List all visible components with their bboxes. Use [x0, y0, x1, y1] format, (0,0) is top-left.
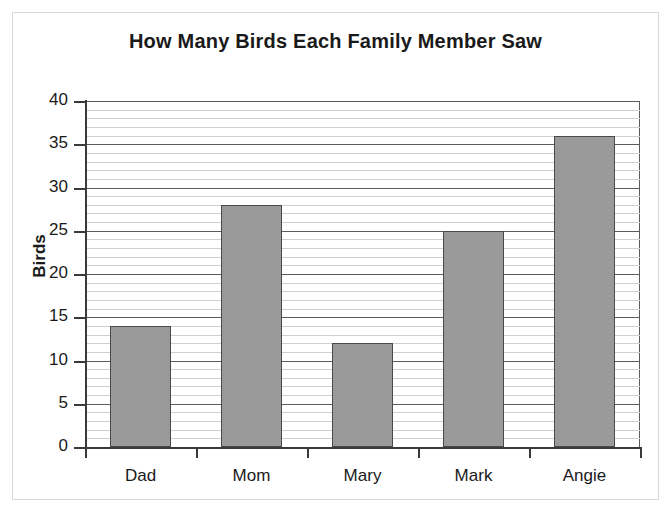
major-gridline	[85, 101, 640, 102]
y-axis-tick	[74, 101, 85, 103]
x-axis-label-mom: Mom	[196, 466, 307, 486]
minor-gridline	[85, 118, 640, 119]
y-axis-tick-label: 0	[18, 436, 68, 456]
x-axis-tick	[85, 447, 87, 458]
chart-title: How Many Birds Each Family Member Saw	[0, 30, 671, 53]
y-axis-tick-label: 40	[18, 90, 68, 110]
bar-angie	[554, 136, 614, 447]
y-axis-tick-label: 35	[18, 133, 68, 153]
y-axis-tick	[74, 361, 85, 363]
x-axis-label-dad: Dad	[85, 466, 196, 486]
bar-mary	[332, 343, 392, 447]
x-axis-tick	[529, 447, 531, 458]
x-axis-label-mary: Mary	[307, 466, 418, 486]
minor-gridline	[85, 110, 640, 111]
bar-dad	[110, 326, 170, 447]
minor-gridline	[85, 127, 640, 128]
y-axis-tick	[74, 317, 85, 319]
plot-area	[85, 101, 640, 447]
x-axis-line	[84, 447, 641, 449]
bar-mom	[221, 205, 281, 447]
chart-screenshot: How Many Birds Each Family Member Saw Bi…	[0, 0, 671, 513]
bar-mark	[443, 231, 503, 447]
y-axis-tick-label: 30	[18, 177, 68, 197]
x-axis-tick	[640, 447, 642, 458]
y-axis-tick	[74, 447, 85, 449]
y-axis-tick-label: 5	[18, 393, 68, 413]
y-axis-tick-label: 25	[18, 220, 68, 240]
y-axis-tick	[74, 404, 85, 406]
x-axis-label-angie: Angie	[529, 466, 640, 486]
x-axis-tick	[307, 447, 309, 458]
y-axis-tick	[74, 274, 85, 276]
y-axis-tick-label: 20	[18, 263, 68, 283]
y-axis-line	[85, 100, 87, 448]
y-axis-tick	[74, 144, 85, 146]
y-axis-tick	[74, 231, 85, 233]
y-axis-tick-label: 15	[18, 306, 68, 326]
x-axis-tick	[196, 447, 198, 458]
x-axis-tick	[418, 447, 420, 458]
y-axis-tick	[74, 188, 85, 190]
y-axis-tick-label: 10	[18, 350, 68, 370]
x-axis-label-mark: Mark	[418, 466, 529, 486]
